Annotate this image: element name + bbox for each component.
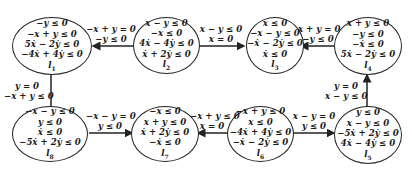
constraint: −4ẋ + 4ẏ ≤ 0 xyxy=(21,49,83,59)
constraint: −4ẋ + 4ẏ ≤ 0 xyxy=(230,127,292,137)
constraint: x − y ≤ 0 xyxy=(347,118,389,128)
guard: x − y ≤ 0 xyxy=(325,91,367,101)
constraint: −5ẋ + 2ẏ ≤ 0 xyxy=(337,128,399,138)
constraint: 5ẋ − 2ẏ ≤ 0 xyxy=(341,49,395,59)
edge-label-l6-l5: x − y = 0 y ≤ 0 xyxy=(292,111,336,132)
constraint: 4ẋ − 4ẏ ≤ 0 xyxy=(139,38,193,48)
guard: y = 0 xyxy=(325,81,367,91)
guard: −y ≤ 0 xyxy=(86,34,136,44)
constraint: −x − y ≤ 0 xyxy=(25,106,75,116)
location-l8: −x − y ≤ 0 y ≤ 0 ẋ ≤ 0 −5ẋ + 2ẏ ≤ 0 l8 xyxy=(12,106,88,162)
guard: −x + y ≤ 0 xyxy=(4,91,50,101)
location-label: l7 xyxy=(161,148,168,162)
location-l7: −x ≤ 0 x + y ≤ 0 ẋ + 2ẏ ≤ 0 −ẋ ≤ 0 l7 xyxy=(131,106,199,162)
location-l4: x + y ≤ 0 −y ≤ 0 −ẋ ≤ 0 5ẋ − 2ẏ ≤ 0 l4 xyxy=(334,17,402,75)
constraint: x ≤ 0 xyxy=(263,18,287,28)
constraint: −y ≤ 0 xyxy=(352,29,383,39)
location-label: l2 xyxy=(163,59,170,73)
guard: y ≤ 0 xyxy=(86,121,134,131)
location-label: l3 xyxy=(271,59,278,73)
guard: x − y = 0 xyxy=(292,111,336,121)
location-label: l4 xyxy=(364,60,371,74)
constraint: ẋ ≤ 0 xyxy=(263,49,287,59)
location-l5: y ≤ 0 x − y ≤ 0 −5ẋ + 2ẏ ≤ 0 4ẋ − 4ẏ ≤ 0… xyxy=(334,106,402,164)
edge-label-l5-l4: y = 0 x − y ≤ 0 xyxy=(325,81,367,102)
guard: −x − y = 0 xyxy=(86,111,134,121)
constraint: −x + y ≤ 0 xyxy=(236,106,286,116)
constraint: −ẋ ≤ 0 xyxy=(149,137,181,147)
constraint: ẋ + 2ẏ ≤ 0 xyxy=(141,127,189,137)
location-label: l1 xyxy=(48,60,55,74)
guard: y = 0 xyxy=(4,81,50,91)
guard: x = 0 xyxy=(196,34,246,44)
location-l3: x ≤ 0 −x − y ≤ 0 −ẋ − 2ẏ ≤ 0 ẋ ≤ 0 l3 xyxy=(246,17,304,74)
guard: x = 0 xyxy=(190,121,234,131)
edge-label-l1-l8: y = 0 −x + y ≤ 0 xyxy=(4,81,50,102)
constraint: −x ≤ 0 xyxy=(149,106,181,116)
guard: y ≤ 0 xyxy=(292,121,336,131)
location-label: l5 xyxy=(364,149,371,163)
constraint: ẋ + 2ẏ ≤ 0 xyxy=(142,49,190,59)
constraint: x + y ≤ 0 xyxy=(144,117,186,127)
constraint: y ≤ 0 xyxy=(38,117,62,127)
constraint: 5ẋ − 2ẏ ≤ 0 xyxy=(25,39,79,49)
guard: x − y ≤ 0 xyxy=(196,24,246,34)
edge-label-l2-l1: −x + y = 0 −y ≤ 0 xyxy=(86,24,136,45)
edge-label-l4-l3: x + y = 0 −y ≤ 0 xyxy=(298,24,338,45)
constraint: y ≤ 0 xyxy=(356,107,380,117)
location-label: l6 xyxy=(257,148,264,162)
constraint: −5ẋ + 2ẏ ≤ 0 xyxy=(19,137,81,147)
constraint: x − y ≤ 0 xyxy=(145,18,187,28)
constraint: −ẋ − 2ẏ ≤ 0 xyxy=(247,38,303,48)
constraint: −x + y ≤ 0 xyxy=(27,29,77,39)
constraint: −ẋ ≤ 0 xyxy=(352,39,384,49)
constraint: x ≤ 0 xyxy=(248,117,272,127)
constraint: −ẋ − 2ẏ ≤ 0 xyxy=(233,137,289,147)
edge-label-l6-l7: −x + y ≤ 0 x = 0 xyxy=(190,111,234,132)
guard: x + y = 0 xyxy=(298,24,338,34)
edge-label-l8-l7: −x − y = 0 y ≤ 0 xyxy=(86,111,134,132)
constraint: −y ≤ 0 xyxy=(36,18,67,28)
constraint: −x ≤ 0 xyxy=(151,28,183,38)
guard: −x + y ≤ 0 xyxy=(190,111,234,121)
edge-label-l2-l3: x − y ≤ 0 x = 0 xyxy=(196,24,246,45)
constraint: ẋ ≤ 0 xyxy=(38,127,62,137)
constraint: x + y ≤ 0 xyxy=(347,18,389,28)
location-l1: −y ≤ 0 −x + y ≤ 0 5ẋ − 2ẏ ≤ 0 −4ẋ + 4ẏ ≤… xyxy=(12,17,92,75)
guard: −y ≤ 0 xyxy=(298,34,338,44)
constraint: −x − y ≤ 0 xyxy=(250,28,300,38)
location-l2: x − y ≤ 0 −x ≤ 0 4ẋ − 4ẏ ≤ 0 ẋ + 2ẏ ≤ 0 … xyxy=(133,17,200,74)
location-label: l8 xyxy=(46,148,53,162)
guard: −x + y = 0 xyxy=(86,24,136,34)
constraint: 4ẋ − 4ẏ ≤ 0 xyxy=(341,138,395,148)
